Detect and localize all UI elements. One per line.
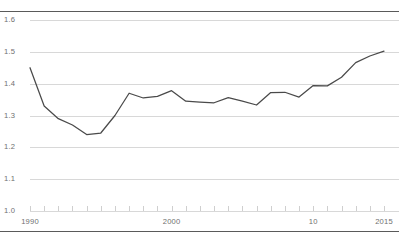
y-tick-label-1.4: 1.4 — [4, 80, 15, 88]
gridlines-group — [30, 21, 399, 212]
x-tick-label-2000: 2000 — [152, 218, 192, 226]
y-tick-label-1.1: 1.1 — [4, 175, 15, 183]
line-chart-plot-area — [0, 0, 399, 239]
y-tick-label-1.5: 1.5 — [4, 48, 15, 56]
series-line-value — [30, 51, 384, 134]
y-tick-label-1.6: 1.6 — [4, 16, 15, 24]
y-tick-label-1.0: 1.0 — [4, 207, 15, 215]
chart-svg — [0, 0, 399, 239]
x-tick-label-1990: 1990 — [10, 218, 50, 226]
data-series-group — [30, 51, 384, 134]
chart-figure: 1.01.11.21.31.41.51.6 19902000102015 — [0, 0, 399, 239]
x-tick-label-10: 10 — [293, 218, 333, 226]
y-tick-label-1.3: 1.3 — [4, 112, 15, 120]
y-tick-label-1.2: 1.2 — [4, 143, 15, 151]
x-tick-label-2015: 2015 — [364, 218, 399, 226]
x-tickmarks-group — [31, 206, 385, 211]
